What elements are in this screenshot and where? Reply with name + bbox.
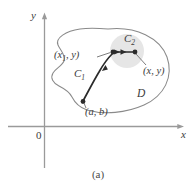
x-axis xyxy=(8,124,184,129)
origin-label: 0 xyxy=(36,130,42,141)
y-axis xyxy=(42,13,47,169)
curve-c1-label-subscript: 1 xyxy=(81,73,85,82)
figure-container: y x 0 (x1, y) C1 C2 (x, y) (a, b) D (a) xyxy=(0,0,196,193)
intermediate-point-label-base: (x xyxy=(54,49,62,60)
curve-c2-label: C2 xyxy=(124,33,135,47)
intermediate-point-label: (x1, y) xyxy=(54,50,79,63)
leader-line-x1y xyxy=(97,53,111,58)
x-axis-label: x xyxy=(181,129,186,140)
figure-graphics xyxy=(0,0,196,193)
region-label: D xyxy=(137,88,145,100)
intermediate-point-label-rest: , y) xyxy=(66,49,79,60)
intermediate-point-marker xyxy=(111,50,116,55)
figure-caption: (a) xyxy=(0,168,196,180)
y-axis-label: y xyxy=(31,10,36,21)
start-point-marker xyxy=(81,99,86,104)
curve-c1 xyxy=(83,53,113,101)
start-point-label: (a, b) xyxy=(85,107,108,118)
end-point-marker xyxy=(133,50,138,55)
curve-c2-label-subscript: 2 xyxy=(131,38,135,47)
end-point-label: (x, y) xyxy=(143,66,165,77)
curve-c1-label: C1 xyxy=(74,68,85,82)
